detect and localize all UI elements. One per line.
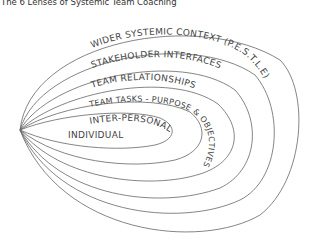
lens-team-relationships [20,71,252,198]
lens-label-team-relationships: TEAM RELATIONSHIPS [89,72,198,91]
lens-label-stakeholder: STAKEHOLDER INTERFACES [90,49,223,70]
lenses-diagram: WIDER SYSTEMIC CONTEXT (P.E.S.T.L.E) STA… [0,0,313,252]
lens-label-individual: INDIVIDUAL [68,130,123,140]
